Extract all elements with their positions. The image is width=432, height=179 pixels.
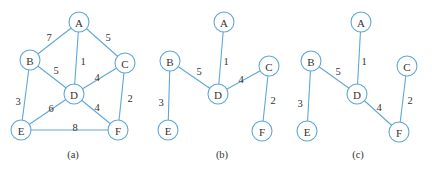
node-e: E	[11, 120, 31, 140]
node-label: C	[403, 61, 410, 73]
node-label: F	[115, 125, 121, 137]
panel-c-spanning-tree: 15432ABCDEF(c)	[297, 12, 417, 161]
edge-a-d	[74, 22, 79, 94]
node-d: D	[347, 84, 367, 104]
node-f: F	[108, 120, 128, 140]
edge-weight-label: 2	[407, 95, 412, 106]
node-e: E	[158, 120, 178, 140]
node-label: F	[259, 126, 265, 138]
edge-weight-label: 1	[223, 56, 228, 67]
node-a: A	[69, 12, 89, 32]
node-f: F	[252, 121, 272, 141]
node-b: B	[20, 50, 40, 70]
node-b: B	[160, 51, 180, 71]
edge-weight-label: 3	[158, 97, 163, 108]
node-label: E	[18, 125, 25, 137]
node-label: E	[165, 125, 172, 137]
node-label: C	[265, 61, 272, 73]
node-e: E	[297, 121, 317, 141]
edge-weight-label: 5	[196, 66, 201, 77]
node-label: A	[75, 17, 83, 29]
panel-caption: (a)	[67, 149, 79, 161]
edge-weight-label: 2	[270, 95, 275, 106]
node-label: A	[220, 17, 228, 29]
edge-weight-label: 4	[94, 72, 100, 83]
node-d: D	[208, 84, 228, 104]
panel-a-full-graph: 7515436428ABCDEF(a)	[11, 12, 135, 161]
node-label: F	[396, 127, 402, 139]
node-c: C	[259, 56, 279, 76]
node-label: D	[353, 89, 361, 101]
edge-weight-label: 4	[376, 102, 382, 113]
edge-weight-label: 4	[238, 74, 244, 85]
edge-weight-label: 3	[297, 98, 302, 109]
node-a: A	[351, 12, 371, 32]
node-c: C	[397, 56, 417, 76]
node-d: D	[64, 84, 84, 104]
node-label: C	[121, 58, 128, 70]
edge-weight-label: 8	[72, 122, 77, 133]
panel-b-spanning-tree: 15432ABCDEF(b)	[158, 12, 279, 161]
edge-weight-label: 1	[361, 56, 366, 67]
edge-weight-label: 1	[80, 56, 85, 67]
node-label: E	[304, 126, 311, 138]
edge-b-e	[21, 60, 30, 130]
node-label: B	[26, 55, 33, 67]
node-label: D	[214, 89, 222, 101]
node-label: B	[307, 56, 314, 68]
edge-weight-label: 3	[15, 96, 20, 107]
edge-weight-label: 2	[127, 93, 132, 104]
edge-weight-label: 4	[94, 102, 100, 113]
panel-caption: (b)	[216, 149, 229, 161]
edge-weight-label: 7	[46, 32, 51, 43]
edge-weight-label: 5	[105, 32, 110, 43]
node-c: C	[115, 53, 135, 73]
node-b: B	[301, 51, 321, 71]
edge-weight-label: 5	[335, 66, 340, 77]
edge-weight-label: 5	[53, 65, 58, 76]
node-label: A	[357, 17, 365, 29]
edge-weight-label: 6	[48, 103, 53, 114]
graph-figure: 7515436428ABCDEF(a) 15432ABCDEF(b) 15432…	[0, 0, 432, 179]
node-label: D	[70, 89, 78, 101]
panel-caption: (c)	[352, 149, 364, 161]
node-f: F	[389, 122, 409, 142]
node-a: A	[214, 12, 234, 32]
node-label: B	[166, 56, 173, 68]
